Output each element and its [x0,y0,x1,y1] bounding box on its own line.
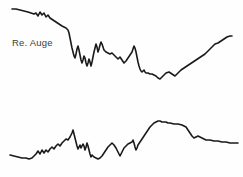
right-eye-trace-panel: Re. Auge [0,0,243,88]
waveform-chart: Re. Auge Li.Auge [0,0,243,177]
right-eye-label: Re. Auge [12,38,53,48]
left-eye-trace-panel: Li.Auge [0,88,243,177]
left-eye-trace-line [10,121,238,159]
left-eye-trace-graphic [0,88,243,177]
